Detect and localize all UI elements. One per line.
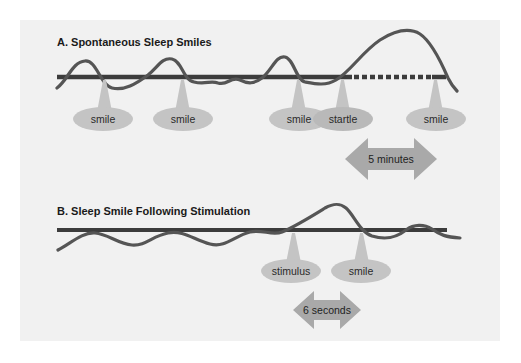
label-text: startle [329, 113, 358, 125]
sleep-smile-diagram: A. Spontaneous Sleep Smiles smile smile … [0, 0, 521, 363]
label-text: smile [349, 265, 374, 277]
panel-b: B. Sleep Smile Following Stimulation sti… [57, 204, 460, 329]
label-bubble-stimulus: stimulus [261, 259, 321, 283]
label-bubble-smile-1: smile [73, 107, 133, 131]
label-text: smile [171, 113, 196, 125]
label-bubble-smile-4: smile [406, 107, 466, 131]
label-bubble-smile: smile [331, 259, 391, 283]
label-text: smile [424, 113, 449, 125]
panel-b-title: B. Sleep Smile Following Stimulation [57, 205, 250, 217]
panel-a: A. Spontaneous Sleep Smiles smile smile … [57, 31, 466, 180]
duration-label: 5 minutes [368, 153, 414, 165]
label-text: smile [91, 113, 116, 125]
duration-arrow-5-minutes: 5 minutes [345, 138, 437, 180]
label-bubble-startle: startle [313, 107, 373, 131]
pointer [286, 233, 301, 263]
duration-arrow-6-seconds: 6 seconds [293, 291, 361, 329]
label-bubble-smile-2: smile [153, 107, 213, 131]
panel-a-title: A. Spontaneous Sleep Smiles [57, 36, 212, 48]
pointer [354, 233, 369, 263]
duration-label: 6 seconds [303, 304, 351, 316]
label-text: stimulus [272, 265, 311, 277]
label-text: smile [287, 113, 312, 125]
